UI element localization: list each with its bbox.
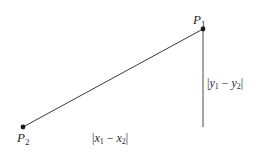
point-p2-dot [21,125,26,130]
horizontal-distance-label: |x1 − x2| [92,131,128,146]
point-p1-label: P1 [192,12,205,29]
vertical-distance-label: |y1 − y2| [207,76,243,91]
hypotenuse-line [23,29,203,127]
distance-diagram: P1 P2 |y1 − y2| |x1 − x2| [0,0,260,154]
point-p2-label: P2 [16,130,29,147]
